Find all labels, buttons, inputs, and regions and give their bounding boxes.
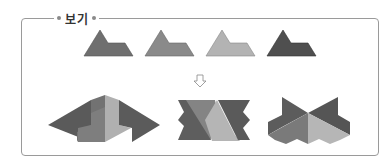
arrangement-3 [268,97,350,144]
down-arrow-icon [194,75,206,87]
arrangement-1 [48,95,160,142]
puzzle-figure [0,0,389,165]
piece-3 [206,30,255,56]
piece-4 [267,30,316,56]
arrangement-2 [178,100,250,141]
piece-1 [84,30,133,56]
piece-2 [145,30,194,56]
